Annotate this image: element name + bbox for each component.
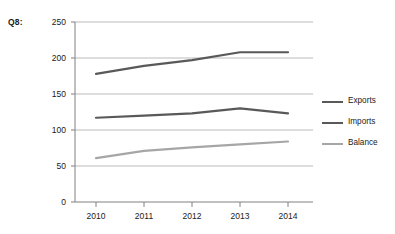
legend-swatch-imports [322,122,343,124]
y-tick-label: 100 [52,125,66,135]
y-tick-label: 200 [52,53,66,63]
y-tick-marks [71,22,75,202]
legend-label-imports: Imports [348,118,375,126]
legend-label-exports: Exports [348,97,376,105]
y-tick-label: 0 [61,197,66,207]
y-tick-labels: 250 200 150 100 50 0 [52,17,66,207]
x-tick-label: 2011 [135,211,154,221]
x-tick-marks [96,202,288,207]
series-line-exports [96,52,288,74]
x-tick-label: 2012 [183,211,202,221]
legend-item-imports: Imports [322,112,394,133]
y-tick-label: 250 [52,17,66,27]
legend-item-exports: Exports [322,91,394,112]
series-line-balance [96,142,288,159]
y-tick-label: 150 [52,89,66,99]
chart-figure: Q8: [0,0,395,234]
legend-swatch-balance [322,143,343,145]
gridlines [75,22,313,166]
legend-label-balance: Balance [348,139,378,147]
x-tick-label: 2013 [231,211,250,221]
y-tick-label: 50 [57,161,67,171]
series-line-imports [96,108,288,117]
x-tick-label: 2010 [87,211,106,221]
legend-swatch-exports [322,101,343,103]
x-tick-label: 2014 [279,211,298,221]
x-tick-labels: 2010 2011 2012 2013 2014 [87,211,298,221]
data-series-group [96,52,288,158]
legend-item-balance: Balance [322,133,394,154]
chart-legend: Exports Imports Balance [322,91,394,154]
